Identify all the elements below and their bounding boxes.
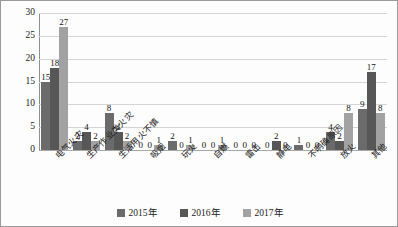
y-axis-tick-labels: 051015202530	[11, 13, 35, 150]
bar-slot: 17	[367, 13, 376, 150]
x-axis-tick-cell: 雷击	[229, 152, 261, 200]
bar-slot: 0	[240, 13, 249, 150]
bar-cluster: 201	[166, 13, 198, 150]
bar-value-label: 2	[274, 132, 279, 141]
x-axis-tick-cell: 电气火灾	[39, 152, 71, 200]
x-axis-tick-cell: 不明确原因	[292, 152, 324, 200]
bar-slot: 2	[91, 13, 100, 150]
x-axis-tick-cell: 生活用火不慎	[102, 152, 134, 200]
bar-slot: 4	[82, 13, 91, 150]
x-axis-tick-labels: 电气火灾生产作业类火灾生活用火不慎吸烟玩火自燃雷击静电不明确原因放火其他	[39, 152, 387, 200]
bar-cluster: 100	[292, 13, 324, 150]
bar-slot: 2	[168, 13, 177, 150]
bar-value-label: 0	[265, 141, 270, 150]
bar-value-label: 1	[297, 136, 302, 145]
legend-label: 2017年	[255, 209, 284, 219]
bar[interactable]: 15	[41, 82, 50, 151]
bar-slot: 1	[294, 13, 303, 150]
legend-label: 2015年	[129, 209, 158, 219]
y-axis-tick: 20	[13, 54, 35, 64]
bar-slot: 1	[218, 13, 227, 150]
bar-slot: 0	[303, 13, 312, 150]
y-axis-tick: 30	[13, 8, 35, 18]
bar-value-label: 8	[107, 104, 112, 113]
x-axis-tick-cell: 放火	[324, 152, 356, 200]
bar-cluster: 000	[229, 13, 261, 150]
bar-value-label: 2	[170, 132, 175, 141]
bar-slot: 0	[263, 13, 272, 150]
y-axis-tick: 15	[13, 77, 35, 87]
y-axis-tick: 25	[13, 31, 35, 41]
legend-swatch-icon	[117, 209, 125, 217]
bar-value-label: 15	[41, 73, 50, 82]
legend-item[interactable]: 2016年	[180, 209, 221, 219]
chart-container: 受伤人数/人 051015202530 15182724284200120100…	[0, 0, 398, 227]
bar[interactable]: 18	[50, 68, 59, 150]
bar-slot: 15	[41, 13, 50, 150]
y-axis-tick: 0	[13, 145, 35, 155]
bar-slot: 0	[281, 13, 290, 150]
bar-slot: 0	[177, 13, 186, 150]
bar-value-label: 18	[50, 59, 59, 68]
bar-slot: 0	[231, 13, 240, 150]
bar-slot: 2	[123, 13, 132, 150]
x-axis-tick-cell: 玩火	[166, 152, 198, 200]
legend-swatch-icon	[180, 209, 188, 217]
bar-value-label: 17	[367, 63, 376, 72]
bar-slot: 9	[358, 13, 367, 150]
bar-value-label: 0	[233, 141, 238, 150]
bar-value-label: 27	[59, 18, 68, 27]
bar-value-label: 0	[202, 141, 207, 150]
bar-value-label: 8	[346, 104, 351, 113]
legend-swatch-icon	[243, 209, 251, 217]
y-axis-tick: 10	[13, 100, 35, 110]
bar-value-label: 9	[360, 100, 365, 109]
bar-slot: 18	[50, 13, 59, 150]
bar-cluster: 020	[260, 13, 292, 150]
x-axis-tick-cell: 自燃	[197, 152, 229, 200]
bar-slot: 27	[59, 13, 68, 150]
bar[interactable]: 9	[358, 109, 367, 150]
bar-slot: 0	[312, 13, 321, 150]
bar-cluster: 001	[197, 13, 229, 150]
bar-value-label: 4	[84, 123, 89, 132]
legend-item[interactable]: 2017年	[243, 209, 284, 219]
bar-cluster: 151827	[39, 13, 71, 150]
bar-slot: 8	[376, 13, 385, 150]
bar-slot: 2	[272, 13, 281, 150]
bar-slot: 0	[209, 13, 218, 150]
bar[interactable]: 1	[294, 145, 303, 150]
x-axis-tick-cell: 其他	[355, 152, 387, 200]
legend-label: 2016年	[192, 209, 221, 219]
chart-legend: 2015年2016年2017年	[1, 209, 398, 219]
bar-slot: 1	[186, 13, 195, 150]
x-axis-tick-cell: 静电	[260, 152, 292, 200]
bar-slot: 0	[249, 13, 258, 150]
bar-slot: 1	[154, 13, 163, 150]
legend-item[interactable]: 2015年	[117, 209, 158, 219]
bar-slot: 0	[200, 13, 209, 150]
bar[interactable]: 27	[59, 27, 68, 150]
bar-slot: 8	[344, 13, 353, 150]
bar[interactable]: 2	[168, 141, 177, 150]
bar[interactable]: 17	[367, 72, 376, 150]
x-axis-tick-cell: 吸烟	[134, 152, 166, 200]
y-axis-tick: 5	[13, 122, 35, 132]
x-axis-tick-cell: 生产作业类火灾	[71, 152, 103, 200]
bar-cluster: 9178	[355, 13, 387, 150]
bar-value-label: 8	[378, 104, 383, 113]
